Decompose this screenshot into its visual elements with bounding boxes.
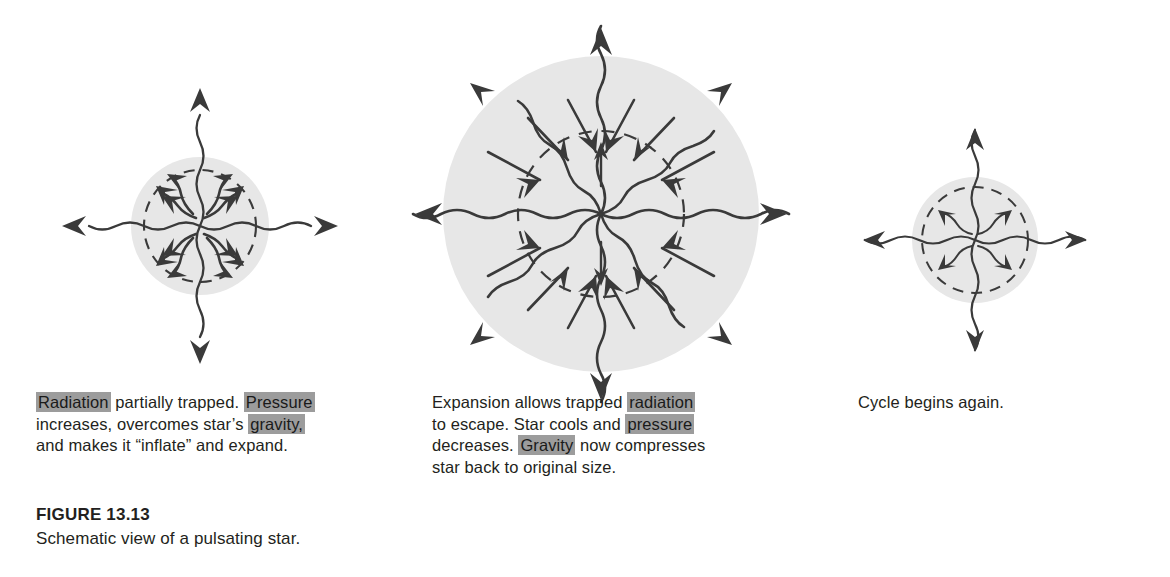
- panel-expanded-escaping: Expansion allows trapped radiationto esc…: [400, 0, 820, 420]
- caption-line: Cycle begins again.: [858, 392, 1118, 414]
- caption-highlight-term: pressure: [625, 414, 694, 434]
- panel-3-caption: Cycle begins again.: [858, 392, 1118, 414]
- caption-text: to escape. Star cools and: [432, 415, 625, 433]
- caption-line: and makes it “inflate” and expand.: [36, 435, 366, 457]
- caption-highlight-term: gravity,: [248, 414, 305, 434]
- caption-line: star back to original size.: [432, 457, 782, 479]
- caption-line: decreases. Gravity now compresses: [432, 435, 782, 457]
- panel-1-diagram: [0, 0, 400, 400]
- panel-3-diagram: [820, 0, 1170, 420]
- caption-text: partially trapped.: [111, 393, 244, 411]
- caption-text: star back to original size.: [432, 458, 616, 476]
- caption-text: Expansion allows trapped: [432, 393, 627, 411]
- panel-contracted-trapped: Radiation partially trapped. Pressureinc…: [0, 0, 400, 400]
- caption-highlight-term: Radiation: [36, 392, 111, 412]
- figure-label-block: FIGURE 13.13 Schematic view of a pulsati…: [36, 505, 456, 549]
- caption-text: and makes it “inflate” and expand.: [36, 436, 288, 454]
- panel-1-caption: Radiation partially trapped. Pressureinc…: [36, 392, 366, 457]
- caption-line: Radiation partially trapped. Pressure: [36, 392, 366, 414]
- caption-highlight-term: Gravity: [518, 435, 575, 455]
- caption-text: now compresses: [575, 436, 705, 454]
- figure-number: FIGURE 13.13: [36, 505, 456, 525]
- caption-line: to escape. Star cools and pressure: [432, 414, 782, 436]
- caption-line: increases, overcomes star’s gravity,: [36, 414, 366, 436]
- figure-pulsating-star: Radiation partially trapped. Pressureinc…: [0, 0, 1170, 577]
- caption-highlight-term: Pressure: [244, 392, 315, 412]
- panel-cycle-restart: Cycle begins again.: [820, 0, 1170, 420]
- caption-highlight-term: radiation: [627, 392, 695, 412]
- escaping-radiation-rays: [89, 115, 311, 337]
- panel-2-diagram: [400, 0, 820, 420]
- caption-text: Cycle begins again.: [858, 393, 1004, 411]
- escaping-radiation-rays: [865, 130, 1085, 350]
- caption-line: Expansion allows trapped radiation: [432, 392, 782, 414]
- caption-text: increases, overcomes star’s: [36, 415, 248, 433]
- figure-title: Schematic view of a pulsating star.: [36, 529, 456, 549]
- caption-text: decreases.: [432, 436, 518, 454]
- panel-2-caption: Expansion allows trapped radiationto esc…: [432, 392, 782, 478]
